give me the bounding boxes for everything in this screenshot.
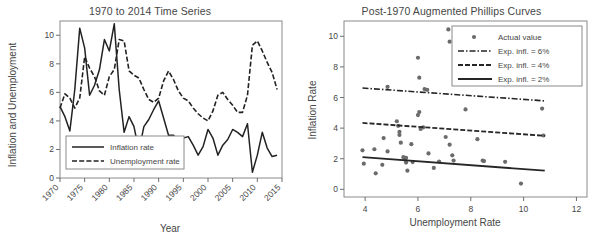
scatter-point: [446, 27, 450, 31]
legend-label-right-3: Exp. infl. = 2%: [498, 75, 549, 84]
scatter-point: [409, 142, 413, 146]
legend-label-right-0: Actual value: [498, 33, 542, 42]
y-axis-label-right: Inflation Rate: [307, 80, 318, 139]
y-tick-label-left: 0: [49, 173, 54, 183]
scatter-point: [448, 143, 452, 147]
x-tick-label-left: 2000: [188, 182, 209, 203]
fit-line-1: [362, 123, 544, 136]
y-tick-label-right: 2: [333, 154, 338, 164]
scatter-point: [503, 160, 507, 164]
legend-label-right-1: Exp. infl. = 6%: [498, 47, 549, 56]
y-tick-label-right: 0: [333, 184, 338, 194]
x-tick-label-left: 1970: [40, 182, 61, 203]
y-axis-label-left: Inflation and Unemployment: [7, 43, 18, 168]
scatter-point: [382, 136, 386, 140]
scatter-point: [425, 88, 429, 92]
phillips-curve-plot: Inflation Rate Unemployment Rate 0246810…: [300, 0, 603, 239]
x-tick-label-left: 1975: [65, 182, 86, 203]
legend-marker-right: [472, 35, 476, 39]
x-tick-label-left: 2010: [237, 182, 258, 203]
chart-panel-time-series: 1970 to 2014 Time Series Inflation and U…: [0, 0, 300, 239]
scatter-point: [417, 76, 421, 80]
legend-label-right-2: Exp. infl. = 4%: [498, 61, 549, 70]
chart-title-left: 1970 to 2014 Time Series: [0, 5, 300, 17]
legend-label-left-1: Unemployment rate: [110, 157, 180, 166]
scatter-point: [380, 163, 384, 167]
scatter-point: [432, 166, 436, 170]
x-tick-label-right: 6: [416, 204, 421, 214]
x-tick-label-left: 2015: [262, 182, 283, 203]
x-tick-label-left: 1980: [89, 182, 110, 203]
x-axis-label-right: Unemployment Rate: [409, 217, 501, 228]
series-line-unemployment: [60, 40, 277, 121]
x-tick-label-left: 2005: [213, 182, 234, 203]
chart-panel-phillips: Post-1970 Augmented Phillips Curves Infl…: [300, 0, 603, 239]
scatter-point: [405, 169, 409, 173]
x-tick-label-right: 8: [468, 204, 473, 214]
scatter-point: [463, 107, 467, 111]
scatter-point: [395, 119, 399, 123]
scatter-point: [540, 106, 544, 110]
y-tick-label-right: 4: [333, 123, 338, 133]
scatter-point: [372, 147, 376, 151]
x-tick-label-right: 4: [363, 204, 368, 214]
scatter-point: [482, 159, 486, 163]
x-axis-label-left: Year: [160, 223, 181, 234]
y-tick-label-right: 6: [333, 93, 338, 103]
y-tick-label-right: 8: [333, 62, 338, 72]
y-tick-label-left: 6: [49, 87, 54, 97]
y-tick-label-left: 2: [49, 144, 54, 154]
scatter-point: [475, 137, 479, 141]
fit-line-0: [362, 88, 544, 101]
scatter-point: [448, 40, 452, 44]
y-tick-label-left: 8: [49, 59, 54, 69]
x-tick-label-left: 1985: [114, 182, 135, 203]
scatter-point: [452, 158, 456, 162]
scatter-point: [444, 135, 448, 139]
scatter-point: [397, 133, 401, 137]
figure-root: 1970 to 2014 Time Series Inflation and U…: [0, 0, 603, 239]
chart-title-right: Post-1970 Augmented Phillips Curves: [300, 5, 603, 17]
x-tick-label-left: 1990: [139, 182, 160, 203]
scatter-point: [374, 171, 378, 175]
scatter-point: [360, 148, 364, 152]
x-tick-label-left: 1995: [163, 182, 184, 203]
scatter-point: [385, 149, 389, 153]
y-tick-label-right: 10: [329, 31, 339, 41]
scatter-point: [416, 56, 420, 60]
x-tick-label-right: 12: [572, 204, 582, 214]
y-tick-label-left: 10: [45, 30, 55, 40]
scatter-point: [519, 181, 523, 185]
scatter-point: [385, 85, 389, 89]
scatter-point: [426, 151, 430, 155]
scatter-point: [416, 113, 420, 117]
legend-label-left-0: Inflation rate: [110, 143, 155, 152]
time-series-plot: Inflation and Unemployment Year 02468101…: [0, 0, 300, 239]
y-tick-label-left: 4: [49, 116, 54, 126]
scatter-point: [450, 153, 454, 157]
scatter-point: [362, 162, 366, 166]
x-tick-label-right: 10: [519, 204, 529, 214]
scatter-point: [399, 141, 403, 145]
